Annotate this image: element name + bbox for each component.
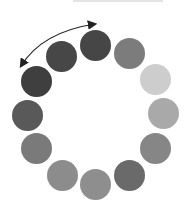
double-arrow-icon bbox=[0, 0, 189, 209]
